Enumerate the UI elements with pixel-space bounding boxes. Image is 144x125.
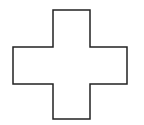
cross-shape: [13, 10, 127, 119]
cross-diagram: [0, 0, 144, 125]
